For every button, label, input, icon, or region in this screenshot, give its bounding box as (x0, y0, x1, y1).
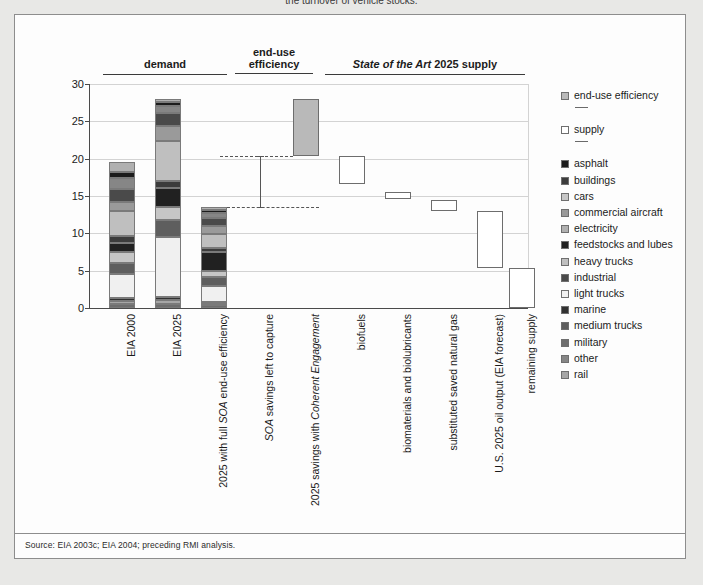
bar-segment-light-trucks[interactable] (109, 274, 135, 298)
legend-item[interactable]: electricity (561, 218, 618, 230)
legend-item[interactable]: feedstocks and lubes (561, 234, 673, 246)
legend-item[interactable]: marine (561, 299, 606, 311)
legend-item[interactable]: light trucks (561, 283, 624, 295)
legend-swatch-icon (561, 371, 569, 379)
bar-segment-buildings[interactable] (201, 248, 227, 252)
bar-segment-other[interactable] (201, 213, 227, 218)
bar-segment-rail[interactable] (201, 303, 227, 305)
y-tick-label: 25 (72, 115, 84, 127)
group-header-line: demand (103, 59, 227, 71)
legend-label: medium trucks (574, 319, 642, 331)
legend-item[interactable]: heavy trucks (561, 251, 633, 263)
legend-item[interactable]: rail (561, 364, 588, 376)
y-tick-label: 20 (72, 153, 84, 165)
clipped-caption-strip: the turnover of vehicle stocks. (0, 0, 703, 14)
y-tick (85, 233, 90, 234)
bar-segment-feedstocks-and-lubes[interactable] (155, 188, 181, 207)
bar-segment-industrial[interactable] (155, 113, 181, 126)
bar-segment-military[interactable] (201, 305, 227, 308)
bar-segment-buildings[interactable] (155, 181, 181, 188)
bar-segment-asphalt[interactable] (201, 210, 227, 213)
bar-segment-medium-trucks[interactable] (155, 220, 181, 237)
bar-segment-buildings[interactable] (109, 236, 135, 242)
legend-swatch-icon (561, 177, 569, 185)
bar-segment-cars[interactable] (109, 252, 135, 263)
floating-bar[interactable] (477, 211, 503, 268)
legend-label: industrial (574, 271, 616, 283)
legend-item[interactable]: end-use efficiency (561, 85, 658, 97)
legend-label: end-use efficiency (574, 89, 658, 101)
bar-segment-electricity[interactable] (109, 162, 135, 173)
bar-segment-rail[interactable] (109, 301, 135, 304)
bar-segment-light-trucks[interactable] (201, 286, 227, 302)
y-tick (85, 159, 90, 160)
gap-arrow-cap-bottom (257, 207, 264, 208)
legend-item[interactable]: buildings (561, 170, 615, 182)
bar-segment-light-trucks[interactable] (155, 237, 181, 297)
figure-page: the turnover of vehicle stocks. demanden… (0, 0, 703, 585)
legend-item[interactable]: other (561, 348, 598, 360)
legend-item[interactable]: industrial (561, 267, 616, 279)
y-tick (85, 271, 90, 272)
group-header-rule (235, 73, 313, 74)
bar-segment-heavy-trucks[interactable] (109, 211, 135, 236)
bar-segment-feedstocks-and-lubes[interactable] (109, 243, 135, 252)
x-axis-label: biomaterials and biolubricants (401, 314, 413, 453)
floating-bar[interactable] (293, 99, 319, 156)
bar-segment-asphalt[interactable] (109, 172, 135, 177)
legend-item[interactable]: commercial aircraft (561, 202, 663, 214)
legend-label: marine (574, 303, 606, 315)
legend-label: military (574, 336, 607, 348)
bar-segment-other[interactable] (155, 106, 181, 113)
legend-item[interactable]: asphalt (561, 153, 608, 165)
bar-segment-electricity[interactable] (201, 207, 227, 210)
legend-item[interactable]: cars (561, 186, 594, 198)
y-tick-label: 10 (72, 227, 84, 239)
floating-bar[interactable] (509, 268, 535, 308)
bar-segment-asphalt[interactable] (155, 102, 181, 106)
bar-segment-medium-trucks[interactable] (201, 277, 227, 285)
bar-segment-commercial-aircraft[interactable] (155, 126, 181, 141)
bar-segment-industrial[interactable] (201, 218, 227, 226)
stacked-bar[interactable] (155, 99, 181, 308)
floating-bar[interactable] (339, 156, 365, 184)
legend-swatch-icon (561, 126, 569, 134)
x-axis-label: SOA savings left to capture (263, 314, 275, 441)
stacked-bar[interactable] (201, 207, 227, 308)
floating-bar[interactable] (431, 200, 457, 210)
bar-segment-heavy-trucks[interactable] (201, 234, 227, 247)
legend-item[interactable]: military (561, 332, 607, 344)
bar-segment-medium-trucks[interactable] (109, 263, 135, 274)
group-header-rest: 2025 supply (431, 58, 497, 70)
x-axis-label: remaining supply (525, 314, 537, 393)
x-label-part: savings left to capture (263, 314, 275, 419)
bar-segment-commercial-aircraft[interactable] (201, 226, 227, 234)
legend-swatch-icon (561, 306, 569, 314)
bar-segment-electricity[interactable] (155, 99, 181, 102)
bar-segment-commercial-aircraft[interactable] (109, 202, 135, 212)
bar-segment-marine[interactable] (109, 298, 135, 301)
legend-item[interactable]: medium trucks (561, 315, 642, 327)
x-label-part: 2025 with full (217, 424, 229, 488)
bar-segment-military[interactable] (109, 304, 135, 308)
y-tick (85, 308, 90, 309)
legend-swatch-icon (561, 193, 569, 201)
bar-segment-rail[interactable] (155, 300, 181, 304)
bar-segment-military[interactable] (155, 304, 181, 308)
legend-item[interactable]: supply (561, 119, 604, 131)
leader-dash-lower (227, 207, 319, 208)
bar-segment-feedstocks-and-lubes[interactable] (201, 252, 227, 271)
x-axis-label: 2025 with full SOA end-use efficiency (217, 314, 229, 488)
legend-swatch-icon (561, 241, 569, 249)
stacked-bar[interactable] (109, 162, 135, 308)
bar-segment-cars[interactable] (201, 271, 227, 277)
bar-segment-cars[interactable] (155, 207, 181, 220)
legend-swatch-icon (561, 92, 569, 100)
bar-segment-industrial[interactable] (109, 189, 135, 201)
bar-segment-other[interactable] (109, 178, 135, 190)
bar-segment-heavy-trucks[interactable] (155, 141, 181, 181)
floating-bar[interactable] (385, 192, 411, 199)
bar-segment-marine[interactable] (155, 297, 181, 300)
y-tick (85, 196, 90, 197)
group-header-soa-2025-supply: State of the Art 2025 supply (325, 59, 525, 71)
